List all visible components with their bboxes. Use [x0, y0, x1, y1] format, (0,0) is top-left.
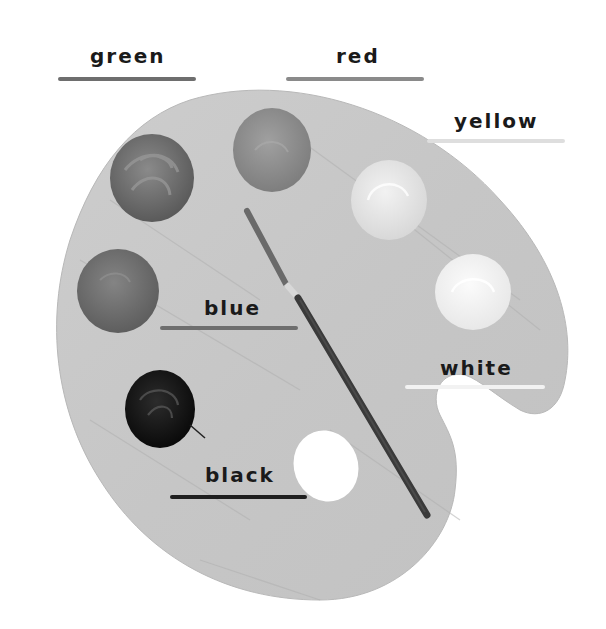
label-white: white — [440, 358, 513, 378]
yellow-paint-blob — [351, 160, 427, 240]
underline-blue — [160, 326, 298, 330]
palette-illustration — [0, 0, 606, 629]
red-paint-blob — [233, 108, 311, 192]
label-red: red — [336, 46, 380, 66]
underline-red — [286, 77, 424, 81]
underline-yellow — [427, 139, 565, 143]
blue-paint-blob — [77, 249, 159, 333]
label-yellow: yellow — [454, 111, 539, 131]
underline-white — [405, 385, 545, 389]
label-blue: blue — [204, 298, 261, 318]
label-black: black — [205, 465, 275, 485]
white-paint-blob — [435, 254, 511, 330]
label-green: green — [90, 46, 166, 66]
underline-black — [170, 495, 307, 499]
underline-green — [58, 77, 196, 81]
green-paint-blob — [110, 134, 194, 222]
